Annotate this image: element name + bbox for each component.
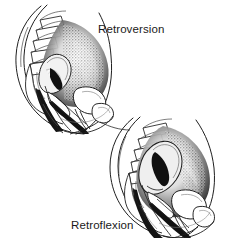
uterine-position-illustration [0, 0, 246, 248]
label-retroflexion: Retroflexion [71, 219, 134, 231]
label-retroversion: Retroversion [98, 23, 164, 35]
